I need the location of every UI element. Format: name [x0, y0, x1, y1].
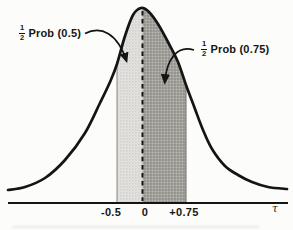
- one-half-fraction: 1 2: [19, 24, 25, 42]
- one-half-fraction: 1 2: [201, 40, 207, 58]
- x-tick-0: 0: [142, 206, 148, 218]
- annotation-prob-right-label: Prob (0.75): [210, 43, 269, 55]
- x-tick-pos-0.75: +0.75: [169, 206, 198, 218]
- figure-canvas: 1 2 Prob (0.5) 1 2 Prob (0.75) -0.5 0 +0…: [0, 0, 293, 230]
- fraction-numerator: 1: [20, 24, 24, 33]
- x-tick-neg-0.5: -0.5: [101, 206, 121, 218]
- fraction-denominator: 2: [19, 33, 25, 43]
- annotation-prob-left: 1 2 Prob (0.5): [19, 24, 81, 42]
- annotation-prob-right: 1 2 Prob (0.75): [201, 40, 269, 58]
- scan-artifact: [12, 226, 259, 228]
- fraction-denominator: 2: [201, 49, 207, 59]
- x-axis-tau-symbol: τ: [272, 202, 278, 214]
- fraction-numerator: 1: [202, 40, 206, 49]
- annotation-prob-left-label: Prob (0.5): [28, 27, 81, 39]
